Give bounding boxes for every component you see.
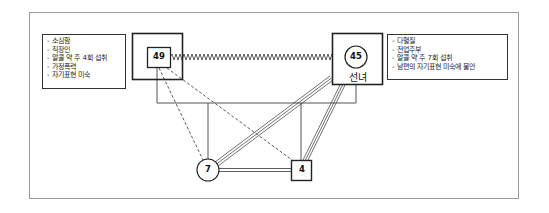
fused-line-wife-7 <box>215 76 333 166</box>
husband-note: - 직장인 <box>47 46 121 55</box>
wife-notes: - 다혈질 - 전업주부 - 알콜 약 주 7회 섭취 - 남편의 자기표현 미… <box>387 34 508 80</box>
husband-note: - 소심함 <box>47 37 121 46</box>
husband-note: - 알콜 약 주 4회 섭취 <box>47 54 121 63</box>
wife-note: - 전업주부 <box>392 46 503 55</box>
distant-line-husband-4 <box>167 68 292 160</box>
husband-notes: - 소심함 - 직장인 - 알콜 약 주 4회 섭취 - 가정폭력 - 자기표현… <box>42 34 126 89</box>
sibling-line <box>219 169 291 172</box>
child-7-age: 7 <box>198 164 218 174</box>
fused-line-wife-4 <box>303 85 345 160</box>
husband-age: 49 <box>148 51 170 61</box>
wife-note: - 다혈질 <box>392 37 503 46</box>
wife-note: - 알콜 약 주 7회 섭취 <box>392 54 503 63</box>
wife-name: 선녀 <box>333 69 383 84</box>
wife-note: - 남편의 자기표현 미숙에 불안 <box>392 63 503 72</box>
child-4-age: 4 <box>292 164 312 174</box>
wife-age: 45 <box>345 51 367 61</box>
husband-note: - 자기표현 미숙 <box>47 71 121 80</box>
distant-line-husband-7 <box>159 68 203 160</box>
genogram-canvas <box>0 0 549 213</box>
conflict-zigzag-line <box>170 54 343 60</box>
